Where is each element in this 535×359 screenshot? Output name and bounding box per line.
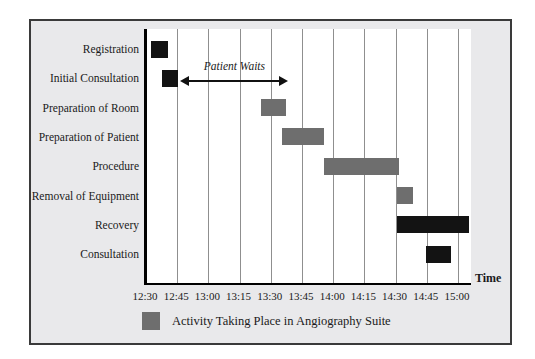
gantt-bar	[162, 70, 179, 87]
gantt-bar	[151, 41, 168, 58]
annotation-label: Patient Waits	[180, 60, 288, 74]
category-label: Registration	[31, 42, 139, 56]
gantt-bar	[426, 246, 451, 263]
legend-label: Activity Taking Place in Angiography Sui…	[172, 312, 391, 330]
category-label: Consultation	[31, 247, 139, 261]
plot-area: Patient Waits	[144, 29, 471, 285]
category-label: Preparation of Patient	[31, 130, 139, 144]
double-arrow-icon	[180, 76, 288, 86]
arrow-line	[186, 80, 282, 82]
x-tick-label: 15:00	[435, 290, 479, 302]
category-label: Recovery	[31, 218, 139, 232]
gridline	[333, 29, 334, 283]
chart-frame: Patient Waits Time Activity Taking Place…	[29, 19, 512, 345]
category-label: Removal of Equipment	[31, 189, 139, 203]
gridline	[396, 29, 397, 283]
patient-waits-annotation: Patient Waits	[180, 60, 288, 88]
gridline	[458, 29, 459, 283]
arrow-right-icon	[279, 76, 288, 86]
category-label: Initial Consultation	[31, 71, 139, 85]
gridline	[364, 29, 365, 283]
legend: Activity Taking Place in Angiography Sui…	[142, 312, 391, 330]
gantt-bar	[397, 187, 414, 204]
gridline	[177, 29, 178, 283]
gantt-bar	[324, 158, 399, 175]
time-axis-title: Time	[475, 271, 501, 286]
legend-swatch	[142, 312, 160, 330]
category-label: Preparation of Room	[31, 101, 139, 115]
gantt-bar	[261, 99, 286, 116]
gantt-bar	[397, 216, 470, 233]
category-label: Procedure	[31, 159, 139, 173]
page: Patient Waits Time Activity Taking Place…	[0, 0, 535, 359]
gantt-bar	[282, 128, 324, 145]
gridline	[302, 29, 303, 283]
